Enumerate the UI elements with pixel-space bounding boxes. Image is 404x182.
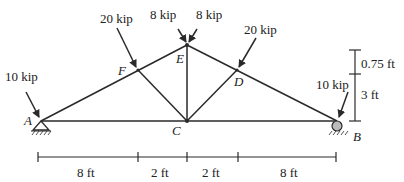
member-FC xyxy=(138,70,187,121)
member-top-right xyxy=(187,45,337,121)
dim-label-3ft: 3 ft xyxy=(361,87,379,102)
joint-E xyxy=(185,43,189,47)
dim-label-1: 8 ft xyxy=(77,165,95,180)
member-top-left xyxy=(41,45,187,121)
dim-label-4: 8 ft xyxy=(280,165,298,180)
load-label-D: 20 kip xyxy=(244,22,277,37)
node-label-A: A xyxy=(23,113,32,128)
node-label-D: D xyxy=(233,74,244,89)
dim-label-2: 2 ft xyxy=(151,165,169,180)
node-label-F: F xyxy=(117,63,127,78)
node-label-C: C xyxy=(172,123,181,138)
load-arrow-E-left xyxy=(178,29,186,42)
load-label-A: 10 kip xyxy=(5,69,38,84)
roller-support-icon xyxy=(329,121,348,135)
joint-C xyxy=(185,119,189,123)
pin-support-icon xyxy=(31,121,51,135)
joint-F xyxy=(136,68,139,71)
dim-label-3: 2 ft xyxy=(202,165,220,180)
load-label-E-right: 8 kip xyxy=(196,7,222,22)
load-label-E-left: 8 kip xyxy=(150,7,176,22)
joint-D xyxy=(235,68,238,71)
load-label-B: 10 kip xyxy=(316,77,349,92)
load-arrow-B xyxy=(339,92,348,117)
load-arrow-D xyxy=(239,38,256,67)
horizontal-dimension xyxy=(38,152,336,162)
load-arrow-F xyxy=(117,28,136,67)
truss-diagram: 10 kip 20 kip 8 kip 8 kip 20 kip 10 kip … xyxy=(0,0,404,182)
node-label-E: E xyxy=(175,51,184,66)
load-arrow-E-right xyxy=(189,29,197,42)
load-label-F: 20 kip xyxy=(100,11,133,26)
node-label-B: B xyxy=(353,129,361,144)
vertical-dimension xyxy=(349,50,361,121)
truss-members xyxy=(41,45,337,121)
dim-label-075ft: 0.75 ft xyxy=(361,56,395,71)
member-DC xyxy=(187,70,237,121)
